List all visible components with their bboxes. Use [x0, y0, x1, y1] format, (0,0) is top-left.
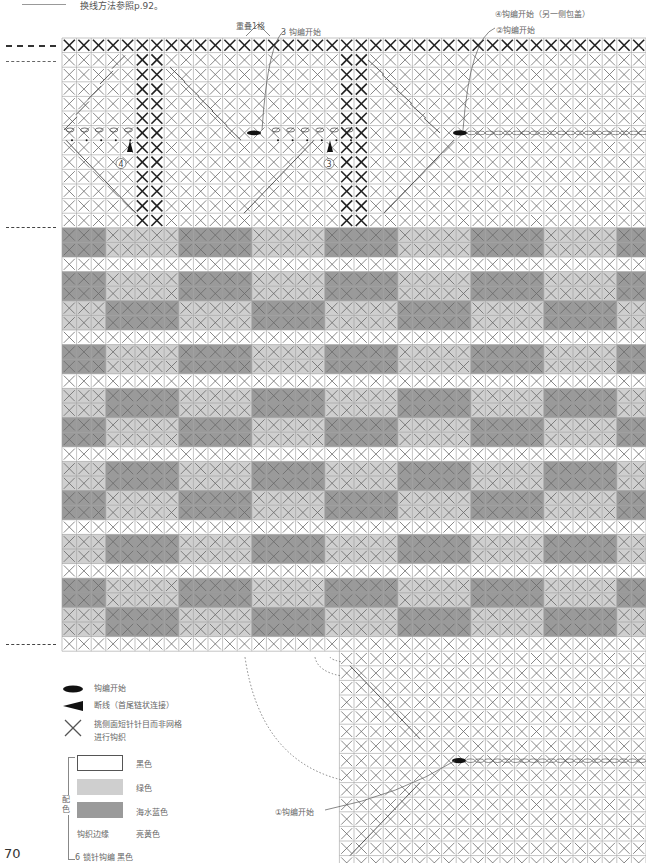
legend-slip-stitch: 6 锁针钩编 黑色 — [75, 851, 133, 862]
legend-swatch-blue-label: 海水蓝色 — [136, 806, 168, 817]
legend-start-icon — [62, 684, 84, 694]
legend-swatch-black-label: 黑色 — [136, 758, 152, 769]
svg-text:4: 4 — [118, 160, 123, 169]
legend-swatch-blue — [77, 802, 123, 818]
legend-swatch-green-label: 绿色 — [136, 782, 152, 793]
legend-edge-label: 钩织边缘 — [77, 828, 109, 839]
legend-edge-color: 亮黄色 — [136, 828, 160, 839]
page-number: 70 — [4, 846, 21, 861]
legend-start-label: 钩编开始 — [94, 682, 126, 693]
legend-swatch-black — [77, 755, 123, 771]
legend-x-label-2: 进行钩织 — [94, 731, 126, 742]
legend-cut-icon — [62, 701, 84, 711]
legend-x-label-1: 挑侧面短针针目而非网格 — [94, 718, 182, 729]
legend-swatch-green — [77, 779, 123, 795]
legend-color-group-label: 配色 — [62, 795, 72, 815]
legend-x-icon — [63, 718, 83, 738]
legend-cut-label: 断线（首尾链状连接） — [94, 699, 174, 710]
svg-text:3: 3 — [326, 160, 331, 169]
